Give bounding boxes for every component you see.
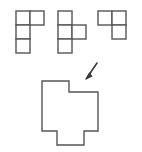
- arrow-head: [85, 72, 93, 80]
- piece-cell: [16, 39, 30, 53]
- piece-cell: [58, 25, 72, 39]
- piece-l-tromino[interactable]: [98, 11, 126, 39]
- target-assembled-shape[interactable]: [42, 81, 98, 145]
- piece-cell: [98, 11, 112, 25]
- down-left-arrow-icon: [85, 63, 97, 80]
- piece-cell: [58, 11, 72, 25]
- piece-cell: [58, 39, 72, 53]
- piece-j-tetromino[interactable]: [16, 11, 44, 53]
- piece-cell: [16, 11, 30, 25]
- puzzle-canvas: [0, 0, 142, 152]
- piece-cell: [112, 25, 126, 39]
- polyomino-puzzle-diagram: Polyomino Assembly Puzzle: [0, 0, 142, 152]
- piece-cell: [16, 25, 30, 39]
- piece-cell: [112, 11, 126, 25]
- piece-cell: [72, 25, 86, 39]
- piece-t-tetromino[interactable]: [58, 11, 86, 53]
- piece-cell: [30, 11, 44, 25]
